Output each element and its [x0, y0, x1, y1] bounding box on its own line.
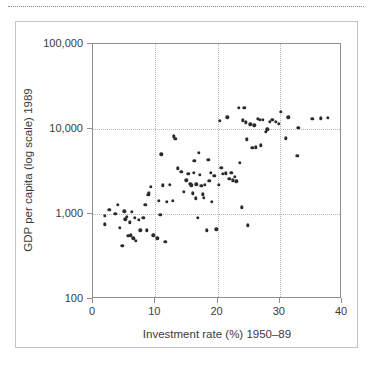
data-point	[210, 200, 213, 203]
data-point	[182, 190, 185, 193]
gridline-y-10000	[93, 129, 340, 130]
data-point	[193, 159, 196, 162]
data-point	[213, 174, 216, 177]
data-point	[205, 229, 208, 232]
data-point	[121, 244, 124, 247]
xtick-label-10: 10	[148, 305, 160, 317]
data-point	[191, 192, 194, 195]
xtick-label-20: 20	[210, 305, 222, 317]
data-point	[261, 118, 264, 121]
xtick-mark-30	[279, 298, 280, 303]
data-point	[198, 173, 201, 176]
data-point	[145, 229, 148, 232]
data-point	[234, 180, 237, 183]
data-point	[253, 123, 256, 126]
data-point	[190, 184, 193, 187]
data-point	[196, 216, 199, 219]
data-point	[185, 179, 188, 182]
data-point	[165, 200, 168, 203]
data-point	[116, 203, 119, 206]
data-point	[173, 137, 176, 140]
data-point	[202, 196, 205, 199]
xtick-mark-20	[217, 298, 218, 303]
xtick-mark-10	[154, 298, 155, 303]
gridline-x-20	[218, 44, 219, 297]
data-point	[264, 130, 267, 133]
data-point	[217, 183, 220, 186]
data-point	[195, 183, 198, 186]
data-point	[133, 216, 136, 219]
data-point	[197, 151, 200, 154]
data-point	[128, 221, 131, 224]
gridline-x-30	[280, 44, 281, 297]
data-point	[192, 171, 195, 174]
ytick-label-1000: 1,000	[55, 207, 83, 219]
xtick-label-40: 40	[335, 305, 347, 317]
data-point	[287, 116, 290, 119]
data-point	[164, 240, 167, 243]
gridline-y-1000	[93, 214, 340, 215]
data-point	[224, 172, 227, 175]
gridline-x-10	[155, 44, 156, 297]
data-point	[206, 158, 209, 161]
data-point	[310, 117, 313, 120]
scatter-plot-figure: 100,000 10,000 1,000 100 0 10 20 30 40 G…	[0, 0, 372, 367]
data-point	[218, 119, 221, 122]
data-point	[220, 166, 223, 169]
data-point	[159, 213, 162, 216]
data-point	[246, 223, 249, 226]
data-point	[226, 116, 229, 119]
data-point	[237, 106, 240, 109]
data-point	[168, 183, 171, 186]
data-point	[122, 209, 125, 212]
data-point	[229, 171, 232, 174]
data-point	[103, 222, 106, 225]
data-point	[326, 116, 329, 119]
data-point	[208, 179, 211, 182]
data-point	[160, 153, 163, 156]
data-point	[243, 106, 246, 109]
xtick-mark-0	[92, 298, 93, 303]
data-point	[107, 208, 110, 211]
data-point	[161, 184, 164, 187]
data-point	[149, 185, 152, 188]
ytick-label-100: 100	[65, 292, 83, 304]
data-point	[194, 197, 197, 200]
data-point	[139, 229, 142, 232]
data-point	[233, 175, 236, 178]
ytick-label-10000: 10,000	[49, 122, 83, 134]
data-point	[171, 199, 174, 202]
data-point	[319, 117, 322, 120]
data-point	[176, 167, 179, 170]
data-point	[284, 136, 287, 139]
page-dotted-rule	[8, 6, 364, 7]
data-point	[244, 121, 247, 124]
data-point	[295, 154, 298, 157]
data-point	[180, 170, 183, 173]
data-point	[254, 146, 257, 149]
data-point	[266, 128, 269, 131]
data-point	[240, 206, 243, 209]
xtick-label-0: 0	[89, 305, 95, 317]
xtick-label-30: 30	[273, 305, 285, 317]
data-point	[157, 199, 160, 202]
data-point	[134, 239, 137, 242]
data-point	[259, 144, 262, 147]
data-point	[245, 137, 248, 140]
data-point	[125, 215, 128, 218]
y-axis-title: GDP per capita (log scale) 1989	[22, 88, 34, 251]
data-point	[238, 161, 241, 164]
ytick-label-100000: 100,000	[43, 37, 83, 49]
data-point	[187, 172, 190, 175]
data-point	[147, 191, 150, 194]
x-axis-title: Investment rate (%) 1950–89	[143, 328, 291, 340]
data-point	[155, 236, 158, 239]
data-point	[142, 216, 145, 219]
data-point	[203, 183, 206, 186]
data-point	[103, 214, 106, 217]
data-point	[118, 226, 121, 229]
plot-area	[92, 43, 341, 298]
xtick-mark-40	[341, 298, 342, 303]
data-point	[279, 110, 282, 113]
data-point	[137, 218, 140, 221]
